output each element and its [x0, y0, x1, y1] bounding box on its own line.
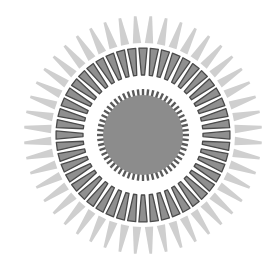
dark-wedge: [202, 120, 229, 129]
light-ray: [133, 16, 141, 43]
light-ray: [232, 149, 260, 160]
light-ray: [224, 81, 251, 98]
light-ray: [118, 224, 129, 252]
light-ray: [30, 95, 57, 109]
light-ray: [169, 22, 183, 49]
light-ray: [133, 226, 141, 253]
light-ray: [232, 110, 260, 121]
light-ray: [169, 221, 183, 248]
light-ray: [89, 28, 106, 55]
dark-wedge: [128, 194, 137, 221]
light-ray: [103, 22, 117, 49]
light-ray: [24, 137, 51, 145]
dark-wedge: [56, 141, 83, 150]
dark-wedge: [139, 48, 147, 75]
dark-wedge: [149, 194, 158, 221]
dark-wedge: [149, 48, 158, 75]
light-ray: [26, 110, 54, 121]
dark-wedge: [139, 195, 147, 222]
light-ray: [118, 18, 129, 46]
dark-wedge: [202, 141, 229, 150]
light-ray: [234, 137, 261, 145]
light-ray: [157, 224, 168, 252]
dark-wedge: [56, 120, 83, 129]
light-ray: [229, 161, 256, 175]
light-ray: [145, 226, 153, 253]
light-ray: [24, 125, 51, 133]
light-ray: [229, 95, 256, 109]
dark-wedge: [128, 48, 137, 75]
light-ray: [157, 18, 168, 46]
light-ray: [103, 221, 117, 248]
light-ray: [26, 149, 54, 160]
light-ray: [180, 28, 197, 55]
light-ray: [180, 216, 197, 243]
dark-wedge: [203, 131, 230, 139]
light-ray: [224, 172, 251, 189]
light-ray: [145, 16, 153, 43]
light-ray: [36, 172, 63, 189]
sunburst-illustration: [0, 0, 275, 263]
light-ray: [89, 216, 106, 243]
light-ray: [234, 125, 261, 133]
light-ray: [30, 161, 57, 175]
light-ray: [36, 81, 63, 98]
core-disk: [103, 95, 183, 175]
sunburst-figure: [0, 0, 275, 263]
dark-wedge: [56, 131, 83, 139]
